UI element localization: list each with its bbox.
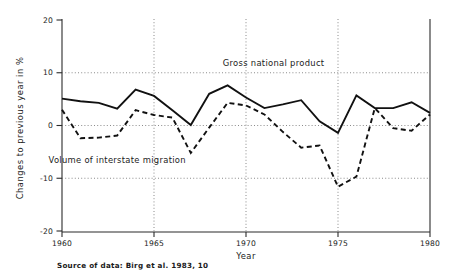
chart-figure: Changes to previous year in % 20 10 0 -1… — [0, 0, 451, 273]
source-caption: Source of data: Birg et al. 1983, 10 — [57, 261, 208, 270]
ytick-label-20: 20 — [43, 16, 53, 25]
x-axis-title: Year — [235, 251, 256, 261]
xtick-label-1975: 1975 — [328, 239, 348, 248]
chart-svg: Changes to previous year in % 20 10 0 -1… — [0, 0, 451, 273]
ytick-label-neg10: -10 — [40, 174, 53, 183]
ytick-label-0: 0 — [48, 121, 53, 130]
xtick-label-1980: 1980 — [420, 239, 440, 248]
ytick-label-neg20: -20 — [40, 227, 53, 236]
ytick-label-10: 10 — [43, 68, 53, 77]
y-axis-title: Changes to previous year in % — [15, 57, 25, 200]
volume-of-interstate-migration-label: Volume of interstate migration — [49, 155, 186, 165]
gross-national-product-label: Gross national product — [223, 58, 325, 68]
xtick-label-1960: 1960 — [52, 239, 72, 248]
xtick-label-1970: 1970 — [236, 239, 256, 248]
xtick-label-1965: 1965 — [144, 239, 164, 248]
